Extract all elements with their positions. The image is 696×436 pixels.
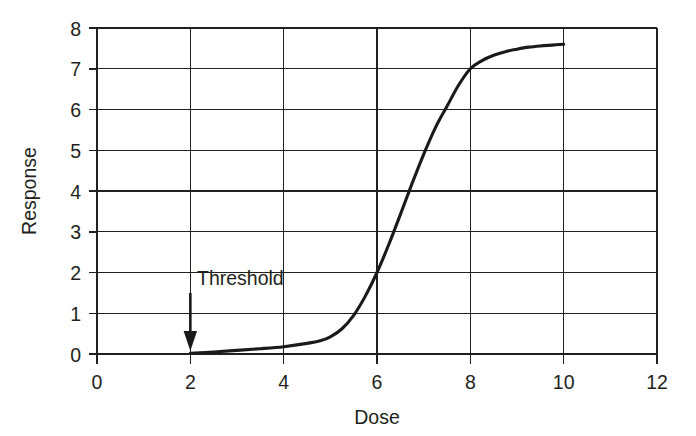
x-tick-label-2: 2 <box>185 371 196 393</box>
y-tick-label-1: 1 <box>70 303 81 325</box>
dose-response-chart: 8 7 6 5 4 3 2 1 0 0 2 4 6 8 10 12 Dos <box>0 0 696 436</box>
x-tick-label-6: 6 <box>372 371 383 393</box>
y-tick-label-3: 3 <box>70 221 81 243</box>
y-axis-tick-labels: 8 7 6 5 4 3 2 1 0 <box>70 18 81 366</box>
x-axis-title: Dose <box>354 406 400 428</box>
threshold-label: Threshold <box>197 267 284 289</box>
y-tick-label-4: 4 <box>70 181 81 203</box>
y-tick-label-0: 0 <box>70 344 81 366</box>
y-tick-label-6: 6 <box>70 99 81 121</box>
chart-svg: 8 7 6 5 4 3 2 1 0 0 2 4 6 8 10 12 Dos <box>0 0 696 436</box>
x-tick-label-4: 4 <box>278 371 289 393</box>
x-axis-tick-labels: 0 2 4 6 8 10 12 <box>92 371 668 393</box>
y-tick-label-7: 7 <box>70 58 81 80</box>
y-tick-label-5: 5 <box>70 140 81 162</box>
x-tick-label-8: 8 <box>465 371 476 393</box>
y-tick-label-8: 8 <box>70 18 81 40</box>
x-axis-ticks <box>97 354 657 364</box>
y-axis-title: Response <box>18 147 40 235</box>
x-tick-label-0: 0 <box>92 371 103 393</box>
x-tick-label-12: 12 <box>646 371 668 393</box>
x-tick-label-10: 10 <box>553 371 575 393</box>
chart-page: 8 7 6 5 4 3 2 1 0 0 2 4 6 8 10 12 Dos <box>0 0 696 436</box>
y-axis-ticks <box>89 28 97 354</box>
y-tick-label-2: 2 <box>70 262 81 284</box>
